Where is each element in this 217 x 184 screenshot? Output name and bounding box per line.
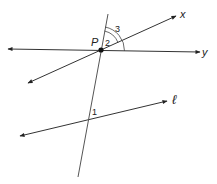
angle-1-label: 1 — [92, 107, 97, 117]
point-p-dot — [98, 47, 103, 52]
point-p-label: P — [91, 36, 99, 48]
geometry-diagram: P 2 3 x y ℓ 1 — [0, 0, 217, 184]
line-x-label: x — [179, 8, 186, 20]
line-y-label: y — [201, 46, 209, 58]
angle-3-label: 3 — [115, 24, 120, 34]
angle-2-label: 2 — [105, 38, 110, 48]
line-y — [8, 49, 200, 52]
line-l-label: ℓ — [172, 92, 177, 107]
